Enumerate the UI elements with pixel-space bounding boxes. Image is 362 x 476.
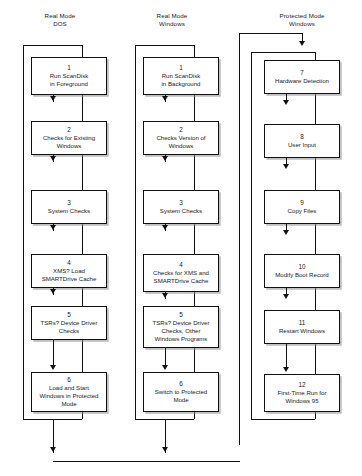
node-col3-8[interactable]: 8 User Input: [264, 124, 340, 158]
col1-exit-arrow: [50, 447, 56, 452]
bottom-bus-line: [53, 461, 240, 462]
node-label: Modify Boot Record: [275, 271, 329, 279]
node-number: 3: [67, 199, 71, 207]
col2-link-5-to-6: [165, 348, 166, 366]
col1-right-rail: [82, 45, 83, 419]
node-col3-11[interactable]: 11 Restart Windows: [264, 310, 340, 344]
col1-link-3-to-4: [53, 224, 54, 231]
node-label: User Input: [288, 141, 316, 149]
node-col1-3[interactable]: 3 System Checks: [31, 190, 107, 224]
node-col2-5[interactable]: 5 TSRs? Device Driver Checks, Other Wind…: [143, 306, 219, 348]
column-header-protected-mode-windows: Protected Mode Windows: [259, 12, 345, 28]
node-label: Checks Version of Windows: [156, 134, 205, 150]
col3-entry-riser: [239, 33, 240, 445]
node-col1-2[interactable]: 2 Checks for Existing Windows: [31, 121, 107, 155]
col2-link-1-to-2: [165, 95, 166, 102]
col2-link-2-to-3: [165, 155, 166, 162]
col3-right-rail: [315, 52, 316, 419]
node-number: 12: [298, 381, 305, 389]
col3-link-7-to-8: [286, 94, 287, 101]
node-label: Load and Start Windows in Protected Mode: [40, 384, 99, 408]
node-col2-1[interactable]: 1 Run ScanDisk in Background: [143, 57, 219, 95]
node-number: 4: [67, 259, 71, 267]
node-number: 11: [299, 319, 306, 327]
node-label: System Checks: [160, 207, 202, 215]
node-label: XMS? Load SMARTDrive Cache: [42, 267, 97, 283]
node-number: 7: [300, 69, 304, 77]
col2-left-rail: [135, 45, 136, 419]
col1-link-4-to-5: [53, 288, 54, 295]
col3-link-9-to-10: [286, 224, 287, 231]
col2-top-bracket: [135, 45, 194, 46]
node-col3-9[interactable]: 9 Copy Files: [264, 190, 340, 224]
node-number: 9: [300, 199, 304, 207]
node-label: Hardware Detection: [275, 77, 329, 85]
node-number: 6: [67, 376, 71, 384]
node-label: Copy Files: [288, 207, 317, 215]
col2-exit-arrow: [162, 447, 168, 452]
col2-link-4-to-5: [165, 292, 166, 299]
node-number: 3: [179, 199, 183, 207]
node-number: 1: [179, 64, 183, 72]
node-col3-10[interactable]: 10 Modify Boot Record: [264, 254, 340, 288]
node-label: Checks for XMS and SMARTDrive Cache: [153, 269, 209, 285]
col1-link-1-to-2: [53, 95, 54, 102]
node-label: Checks for Existing Windows: [43, 134, 95, 150]
col1-left-rail: [23, 45, 24, 419]
node-col1-5[interactable]: 5 TSRs? Device Driver Checks: [31, 306, 107, 340]
node-number: 10: [298, 263, 305, 271]
col1-link-2-to-3: [53, 155, 54, 162]
node-number: 5: [179, 311, 183, 319]
node-col2-2[interactable]: 2 Checks Version of Windows: [143, 121, 219, 155]
node-label: Restart Windows: [279, 327, 325, 335]
node-col2-4[interactable]: 4 Checks for XMS and SMARTDrive Cache: [143, 254, 219, 292]
node-label: Run ScanDisk in Background: [162, 72, 201, 88]
node-number: 1: [67, 64, 71, 72]
col3-link-10-to-11: [286, 288, 287, 295]
flowchart-canvas: Real Mode DOS Real Mode Windows Protecte…: [0, 0, 362, 476]
node-col3-7[interactable]: 7 Hardware Detection: [264, 60, 340, 94]
node-col2-6[interactable]: 6 Switch to Protected Mode: [143, 372, 219, 412]
node-number: 2: [179, 126, 183, 134]
column-header-real-mode-windows: Real Mode Windows: [134, 12, 210, 28]
col1-link-5-to-6: [53, 340, 54, 366]
node-label: TSRs? Device Driver Checks: [41, 319, 98, 335]
node-number: 8: [300, 133, 304, 141]
col3-top-bracket: [251, 52, 315, 53]
col3-left-rail: [251, 52, 252, 419]
col1-top-bracket: [23, 45, 82, 46]
node-number: 2: [67, 126, 71, 134]
node-number: 4: [179, 261, 183, 269]
col3-entry-arrow: [299, 41, 305, 46]
node-label: Run ScanDisk in Foreground: [50, 72, 89, 88]
node-number: 5: [67, 311, 71, 319]
node-label: First-Time Run for Windows 95: [278, 389, 327, 405]
node-number: 6: [179, 380, 183, 388]
node-col3-12[interactable]: 12 First-Time Run for Windows 95: [264, 374, 340, 412]
node-col1-4[interactable]: 4 XMS? Load SMARTDrive Cache: [31, 254, 107, 288]
col2-right-rail: [194, 45, 195, 419]
column-header-real-mode-dos: Real Mode DOS: [22, 12, 98, 28]
col3-entry-bracket: [239, 33, 302, 34]
col3-link-11-to-12: [286, 344, 287, 368]
col3-bottom-bracket: [251, 419, 315, 420]
col2-link-3-to-4: [165, 224, 166, 231]
node-col1-1[interactable]: 1 Run ScanDisk in Foreground: [31, 57, 107, 95]
node-label: Switch to Protected Mode: [155, 388, 208, 404]
node-col2-3[interactable]: 3 System Checks: [143, 190, 219, 224]
node-label: System Checks: [48, 207, 90, 215]
col3-link-8-to-9: [286, 158, 287, 165]
node-label: TSRs? Device Driver Checks, Other Window…: [153, 319, 210, 343]
node-col1-6[interactable]: 6 Load and Start Windows in Protected Mo…: [31, 372, 107, 412]
